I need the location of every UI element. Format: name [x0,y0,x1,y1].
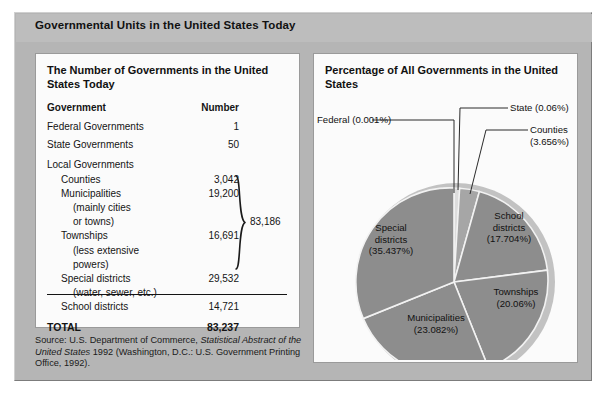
table-row: powers) [47,259,287,273]
row-value: 19,200 [177,188,239,199]
figure-title-bar: Governmental Units in the United States … [16,14,592,42]
total-label: TOTAL [47,321,81,333]
row-label: powers) [73,259,109,270]
pie-callout-counties: Counties (3.656%) [530,124,569,147]
table-row: Special districts 29,532 [47,273,287,287]
row-label: (mainly cities [73,202,131,213]
row-label: (water, sewer, etc.) [73,287,157,298]
table-row: State Governments 50 [47,139,287,153]
pie-label-municipalities: Municipalities (23.082%) [381,312,491,335]
row-label: Counties [61,174,100,185]
table-row: (less extensive [47,245,287,259]
row-value: 14,721 [177,301,239,312]
chart-panel-title: Percentage of All Governments in the Uni… [325,63,565,91]
table-row: Townships 16,691 [47,230,287,244]
leader-line-counties [470,130,528,194]
total-divider [47,294,287,295]
table-row: Federal Governments 1 [47,121,287,135]
table-panel-title: The Number of Governments in the United … [47,63,283,91]
row-value: 3,042 [177,174,239,185]
row-value: 50 [177,139,239,150]
pie-label-townships: Townships (20.06%) [470,286,562,309]
figure-container: Governmental Units in the United States … [14,12,592,381]
source-italic-title: Statistical Abstract of the United State… [35,335,301,357]
row-value: 1 [177,121,239,132]
row-label: School districts [61,301,128,312]
pie-label-special-districts: Special districts (35.437%) [345,222,437,257]
pie-callout-federal: Federal (0.001%) [317,114,391,126]
table-row: School districts 14,721 [47,301,287,315]
leader-line-federal [372,120,454,193]
table-row: Counties 3,042 [47,174,287,188]
pie-label-school-districts: School districts (17.704%) [463,210,555,245]
row-value: 16,691 [177,230,239,241]
table-row: Municipalities 19,200 [47,188,287,202]
pie-chart: Special districts (35.437%) School distr… [318,90,574,360]
pie-leader-lines [372,108,528,194]
total-value: 83,237 [177,321,239,333]
row-label: Municipalities [61,188,121,199]
pie-callout-state: State (0.06%) [510,102,569,114]
column-header-government: Government [47,102,106,113]
table-panel: The Number of Governments in the United … [35,53,300,328]
page-title: Governmental Units in the United States … [35,19,296,31]
row-label: Local Governments [47,159,134,170]
row-label: or towns) [73,216,114,227]
row-label: Special districts [61,273,130,284]
source-note: Source: U.S. Department of Commerce, Sta… [35,335,303,370]
subtotal-value: 83,186 [250,216,281,227]
row-label: Townships [61,230,108,241]
table-row: (mainly cities [47,202,287,216]
row-value: 29,532 [177,273,239,284]
table-header-row: Government Number [47,102,287,121]
row-label: (less extensive [73,245,139,256]
row-label: State Governments [47,139,133,150]
table-row: Local Governments [47,159,287,173]
leader-line-state [458,108,508,190]
row-label: Federal Governments [47,121,144,132]
chart-panel: Percentage of All Governments in the Uni… [313,53,578,363]
column-header-number: Number [177,102,239,113]
subtotal-brace-icon [234,175,246,270]
